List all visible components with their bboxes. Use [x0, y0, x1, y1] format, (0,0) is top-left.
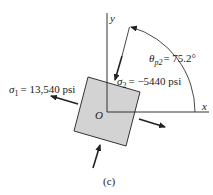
x-axis-label: x [201, 100, 207, 112]
sigma1-arrow-left [51, 96, 78, 104]
sigma2-arrow-bottom [93, 145, 100, 168]
sigma1-label: σ1= 13,540 psi [9, 83, 75, 98]
stress-element-diagram: y x O θp2= 75.2° σ2= −5440 psi σ1= 13,54… [0, 0, 213, 195]
angle-label: θp2= 75.2° [149, 52, 196, 67]
principal-direction-line [122, 27, 130, 56]
angle-arc [131, 27, 195, 112]
y-axis-label: y [109, 12, 115, 24]
sigma1-arrow-right [139, 119, 165, 127]
origin-label: O [95, 109, 103, 121]
figure-caption: (c) [103, 175, 116, 188]
